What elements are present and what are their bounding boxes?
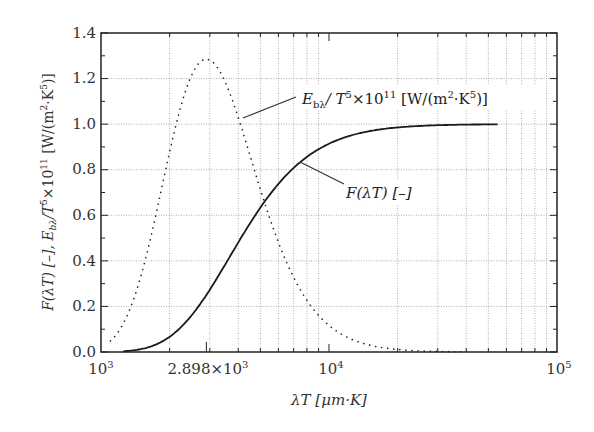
grid bbox=[101, 33, 557, 352]
y-tick-label: 0.2 bbox=[72, 297, 96, 315]
y-tick-label: 0.6 bbox=[72, 206, 96, 224]
eb-annotation-leader bbox=[243, 97, 296, 118]
x-tick-label: 103 bbox=[88, 359, 113, 378]
y-axis-label: F(λT) [–], Ebλ/T5×1011 [W/(m2·K5)] bbox=[39, 73, 58, 312]
y-tick-labels: 0.0 0.2 0.4 0.6 0.8 1.0 1.2 1.4 bbox=[72, 24, 96, 361]
x-tick-labels: 103 2.898×103 104 105 bbox=[88, 359, 571, 378]
x-axis-label: λT [μm·K] bbox=[290, 391, 367, 409]
f-annotation-label: F(λT) [–] bbox=[345, 184, 412, 202]
y-tick-label: 0.4 bbox=[72, 252, 96, 270]
blackbody-fraction-curve bbox=[123, 124, 498, 351]
y-tick-label: 0.8 bbox=[72, 160, 96, 178]
x-tick-label: 105 bbox=[546, 359, 571, 378]
y-tick-label: 1.0 bbox=[72, 115, 96, 133]
y-tick-label: 1.2 bbox=[72, 69, 96, 87]
y-tick-label: 1.4 bbox=[72, 24, 96, 42]
x-tick-label: 104 bbox=[318, 359, 343, 378]
y-tick-label: 0.0 bbox=[72, 343, 96, 361]
x-tick-label: 2.898×103 bbox=[168, 359, 249, 378]
chart: Ebλ/ T5×1011 [W/(m2·K5)] F(λT) [–] 0.0 0… bbox=[0, 0, 594, 432]
